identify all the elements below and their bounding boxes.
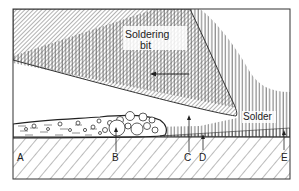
soldering-diagram: Soldering bit Solder A B C D E bbox=[0, 0, 299, 191]
label-a: A bbox=[17, 152, 24, 163]
label-d: D bbox=[199, 152, 206, 163]
label-b: B bbox=[112, 152, 119, 163]
substrate bbox=[13, 137, 290, 179]
label-c: C bbox=[184, 152, 191, 163]
soldering-bit-label-line2: bit bbox=[140, 39, 151, 51]
label-e: E bbox=[281, 152, 288, 163]
solder-label: Solder bbox=[243, 111, 273, 122]
